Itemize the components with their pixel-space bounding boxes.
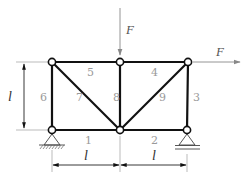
- node-C: [184, 58, 191, 65]
- height-dimension: l: [8, 64, 24, 128]
- member-label-7: 7: [76, 91, 83, 104]
- height-dimension-label: l: [8, 89, 12, 104]
- member-7: [52, 62, 120, 130]
- member-label-4: 4: [151, 66, 158, 79]
- member-label-2: 2: [151, 134, 158, 147]
- member-label-9: 9: [159, 91, 166, 104]
- roller-support: [175, 134, 200, 149]
- load-horizontal: F: [193, 44, 240, 62]
- load-vertical-label: F: [125, 22, 135, 37]
- span-dimensions: l l: [53, 148, 186, 165]
- member-label-8: 8: [113, 91, 120, 104]
- extension-lines: [16, 62, 187, 172]
- pinned-support: [39, 134, 65, 149]
- ground-hatch: [40, 145, 64, 149]
- member-label-6: 6: [40, 91, 47, 104]
- truss-members: [52, 62, 188, 130]
- node-G: [183, 126, 190, 133]
- node-E: [116, 126, 123, 133]
- left-span-label: l: [84, 148, 88, 163]
- right-span-label: l: [152, 148, 156, 163]
- member-3: [187, 62, 188, 130]
- truss-diagram: l l l 1 2 3 4 5 6 7 8 9 F F: [0, 0, 250, 184]
- member-label-3: 3: [193, 91, 200, 104]
- node-A: [48, 58, 55, 65]
- member-label-5: 5: [87, 66, 94, 79]
- node-D: [48, 126, 55, 133]
- load-horizontal-label: F: [215, 44, 225, 59]
- node-B: [116, 58, 123, 65]
- member-label-1: 1: [85, 134, 92, 147]
- load-vertical: F: [120, 8, 135, 55]
